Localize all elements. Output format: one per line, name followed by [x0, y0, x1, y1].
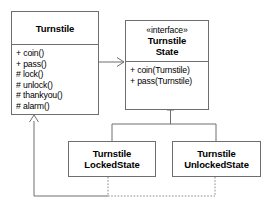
- member-row: # unlock(): [16, 80, 98, 91]
- uml-class-diagram: Turnstile + coin() + pass() # lock() # u…: [0, 0, 271, 207]
- class-name-turnstile: Turnstile: [12, 12, 98, 45]
- interface-name-turnstile-state: «interface» Turnstile State: [126, 21, 208, 62]
- member-row: # lock(): [16, 69, 98, 80]
- member-row: + pass(): [16, 59, 98, 70]
- class-title-line-2: LockedState: [84, 159, 139, 170]
- member-row: + pass(Turnstile): [130, 76, 208, 87]
- member-row: # alarm(): [16, 101, 98, 112]
- class-title-line-1: Turnstile: [93, 148, 132, 159]
- class-box-turnstile[interactable]: Turnstile + coin() + pass() # lock() # u…: [11, 11, 99, 115]
- member-list-turnstile-state: + coin(Turnstile) + pass(Turnstile): [126, 62, 208, 110]
- class-title: Turnstile: [36, 23, 75, 34]
- member-list-turnstile: + coin() + pass() # lock() # unlock() # …: [12, 45, 98, 115]
- class-name-turnstile-locked-state: Turnstile LockedState: [69, 142, 155, 176]
- member-row: + coin(): [16, 48, 98, 59]
- class-title-line-2: UnlockedState: [184, 159, 249, 170]
- stereotype-label: «interface»: [146, 25, 187, 35]
- class-title-line-2: State: [156, 46, 179, 57]
- class-box-turnstile-locked-state[interactable]: Turnstile LockedState: [68, 141, 156, 177]
- open-arrow-icon: [30, 115, 39, 122]
- class-box-turnstile-unlocked-state[interactable]: Turnstile UnlockedState: [172, 141, 261, 177]
- association-turnstile-to-state: [99, 58, 124, 67]
- interface-box-turnstile-state[interactable]: «interface» Turnstile State + coin(Turns…: [125, 20, 209, 110]
- class-title-line-1: Turnstile: [148, 35, 187, 46]
- member-row: # thankyou(): [16, 90, 98, 101]
- class-name-turnstile-unlocked-state: Turnstile UnlockedState: [173, 142, 260, 176]
- class-title-line-1: Turnstile: [197, 148, 236, 159]
- member-row: + coin(Turnstile): [130, 65, 208, 76]
